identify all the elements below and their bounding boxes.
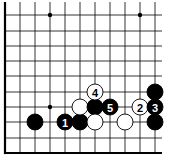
black-stone-icon bbox=[72, 114, 88, 130]
black-stone-icon bbox=[87, 99, 103, 115]
white-stone bbox=[87, 114, 103, 130]
black-stone bbox=[87, 99, 103, 115]
black-stone-icon bbox=[147, 84, 163, 100]
move-number: 5 bbox=[107, 102, 113, 114]
black-stone bbox=[147, 84, 163, 100]
white-stone-icon bbox=[117, 114, 133, 130]
white-stone-4: 4 bbox=[87, 84, 103, 100]
white-stone bbox=[117, 114, 133, 130]
move-number: 4 bbox=[92, 87, 99, 99]
go-board: 14523 bbox=[0, 0, 169, 163]
white-stone bbox=[72, 99, 88, 115]
star-point-icon bbox=[48, 105, 52, 109]
white-stone-icon bbox=[87, 114, 103, 130]
move-number: 1 bbox=[62, 117, 68, 129]
black-stone-icon bbox=[27, 114, 43, 130]
star-point-icon bbox=[48, 13, 52, 17]
black-stone bbox=[147, 114, 163, 130]
black-stone bbox=[72, 114, 88, 130]
white-stone-2: 2 bbox=[132, 99, 148, 115]
black-stone bbox=[27, 114, 43, 130]
black-stone-icon bbox=[147, 114, 163, 130]
black-stone-5: 5 bbox=[102, 99, 118, 115]
board-grid bbox=[5, 2, 162, 154]
star-point-icon bbox=[138, 13, 142, 17]
move-number: 2 bbox=[137, 102, 143, 114]
white-stone-icon bbox=[72, 99, 88, 115]
black-stone-1: 1 bbox=[57, 114, 73, 130]
black-stone-3: 3 bbox=[147, 99, 163, 115]
move-number: 3 bbox=[152, 102, 158, 114]
